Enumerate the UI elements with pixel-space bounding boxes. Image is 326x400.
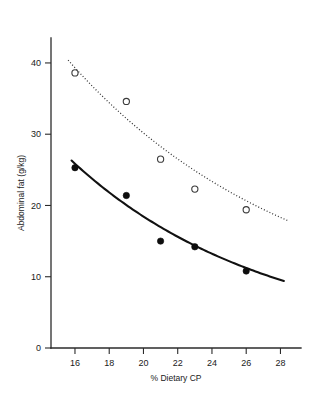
y-tick-label: 30	[31, 129, 41, 139]
y-tick-label: 40	[31, 58, 41, 68]
x-tick-label: 28	[275, 358, 285, 368]
data-point-open	[123, 98, 129, 104]
chart-figure: 010203040 16182022242628 % Dietary CP Ab…	[0, 0, 326, 400]
x-tick-label: 22	[173, 358, 183, 368]
data-point-filled	[123, 192, 129, 198]
chart-canvas: 010203040 16182022242628 % Dietary CP Ab…	[0, 0, 326, 400]
y-tick-label: 20	[31, 201, 41, 211]
series-curve-filled-circle-series	[72, 161, 284, 281]
y-axis-ticks: 010203040	[31, 58, 51, 353]
y-axis-title: Abdominal fat (g/kg)	[16, 155, 26, 231]
x-tick-label: 16	[70, 358, 80, 368]
series-curve-open-circle-series	[68, 60, 287, 220]
plot-axes	[51, 38, 301, 348]
x-tick-label: 26	[241, 358, 251, 368]
data-point-filled	[192, 244, 198, 250]
data-point-filled	[243, 268, 249, 274]
x-tick-label: 24	[207, 358, 217, 368]
data-point-open	[72, 70, 78, 76]
y-tick-label: 0	[36, 343, 41, 353]
series-data-markers	[72, 70, 250, 274]
x-axis-ticks: 16182022242628	[70, 348, 285, 368]
data-point-filled	[72, 165, 78, 171]
data-point-open	[243, 207, 249, 213]
data-point-open	[157, 156, 163, 162]
series-fit-curves	[68, 60, 287, 281]
data-point-filled	[157, 238, 163, 244]
x-tick-label: 20	[138, 358, 148, 368]
x-axis-title: % Dietary CP	[150, 373, 201, 383]
y-tick-label: 10	[31, 272, 41, 282]
x-tick-label: 18	[104, 358, 114, 368]
data-point-open	[192, 186, 198, 192]
